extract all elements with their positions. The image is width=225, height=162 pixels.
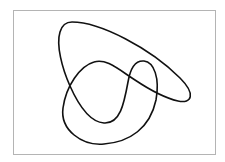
- diagram-canvas: [0, 0, 225, 162]
- diagram-frame: [14, 11, 216, 155]
